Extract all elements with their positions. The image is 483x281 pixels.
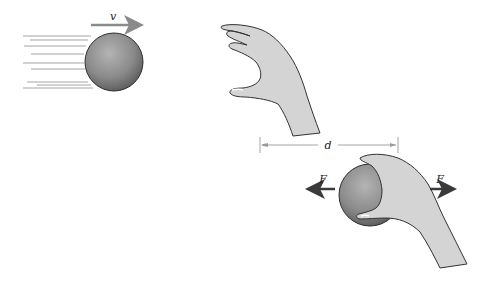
open-hand [221, 25, 320, 136]
catch-diagram: v d F F [0, 0, 483, 281]
force-label-right: F [435, 173, 444, 186]
distance-label: d [324, 139, 331, 152]
force-label-left: F [318, 173, 327, 186]
diagram-canvas: v d F F [0, 0, 483, 281]
velocity-label: v [110, 10, 117, 23]
speed-lines [23, 36, 93, 88]
incoming-ball [85, 33, 143, 91]
